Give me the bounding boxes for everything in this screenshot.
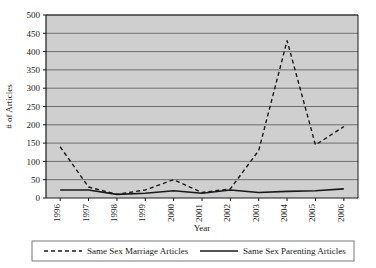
x-tick-label: 2002: [222, 204, 232, 222]
x-axis-title: Year: [194, 223, 211, 233]
y-axis-title: # of Articles: [4, 84, 14, 129]
y-tick-label: 450: [27, 29, 41, 39]
y-tick-label: 100: [27, 157, 41, 167]
y-tick-label: 400: [27, 47, 41, 57]
x-tick-label: 1997: [81, 204, 91, 223]
x-tick-label: 2003: [251, 204, 261, 223]
legend-label-1: Same Sex Parenting Articles: [243, 246, 346, 256]
chart-legend: Same Sex Marriage ArticlesSame Sex Paren…: [32, 241, 354, 261]
x-tick-label: 2000: [166, 204, 176, 223]
y-tick-label: 350: [27, 65, 41, 75]
legend-label-0: Same Sex Marriage Articles: [87, 246, 189, 256]
x-tick-label: 1996: [52, 204, 62, 223]
x-tick-label: 1998: [109, 204, 119, 223]
x-tick-label: 2001: [194, 204, 204, 222]
x-tick-label: 2006: [336, 204, 346, 223]
x-tick-label: 1999: [137, 204, 147, 223]
y-tick-label: 0: [36, 193, 41, 203]
y-tick-label: 50: [31, 175, 41, 185]
y-tick-label: 150: [27, 138, 41, 148]
x-tick-label: 2004: [279, 204, 289, 223]
line-chart: 050100150200250300350400450500 199619971…: [0, 0, 376, 268]
x-tick-label: 2005: [307, 204, 317, 223]
chart-figure: 050100150200250300350400450500 199619971…: [0, 0, 376, 268]
y-tick-label: 250: [27, 102, 41, 112]
y-tick-label: 300: [27, 83, 41, 93]
y-tick-label: 200: [27, 120, 41, 130]
y-tick-label: 500: [27, 10, 41, 20]
